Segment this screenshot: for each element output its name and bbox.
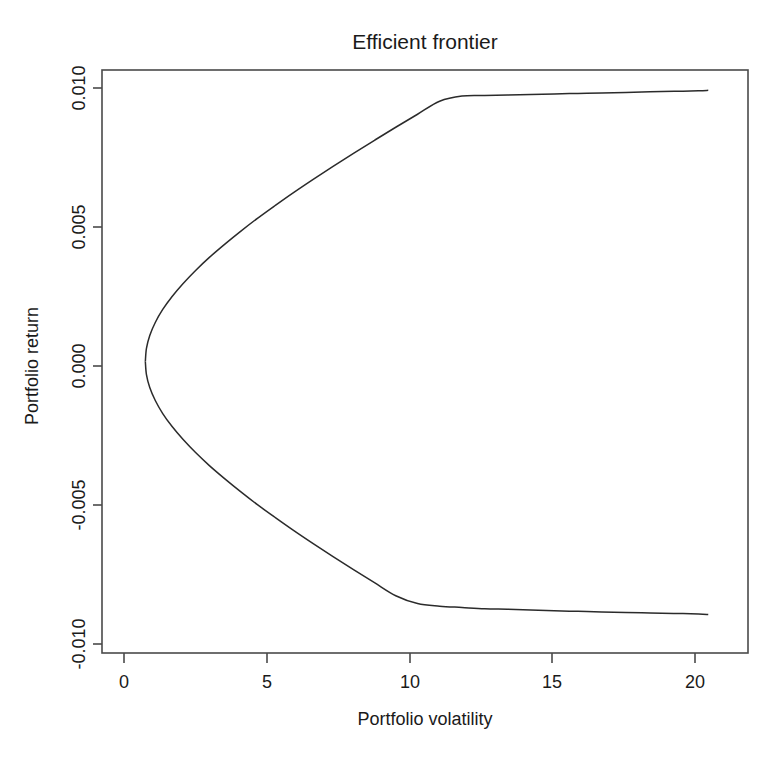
y-tick-label: -0.005 [69, 479, 89, 530]
plot-canvas: Efficient frontier 0.010 0.005 0.000 -0.… [0, 0, 779, 761]
efficient-frontier-figure: Efficient frontier 0.010 0.005 0.000 -0.… [0, 0, 779, 761]
x-tick-label: 20 [685, 672, 705, 692]
x-tick-label: 5 [262, 672, 272, 692]
y-axis-title: Portfolio return [22, 307, 42, 425]
y-tick-label: -0.010 [69, 618, 89, 669]
x-tick-label: 10 [400, 672, 420, 692]
chart-title: Efficient frontier [352, 30, 498, 53]
y-tick-label: 0.005 [69, 204, 89, 249]
x-tick-label: 0 [119, 672, 129, 692]
y-tick-label: 0.010 [69, 65, 89, 110]
figure-background [0, 0, 779, 761]
x-axis-title: Portfolio volatility [357, 709, 492, 729]
x-tick-label: 15 [542, 672, 562, 692]
y-tick-label: 0.000 [69, 343, 89, 388]
